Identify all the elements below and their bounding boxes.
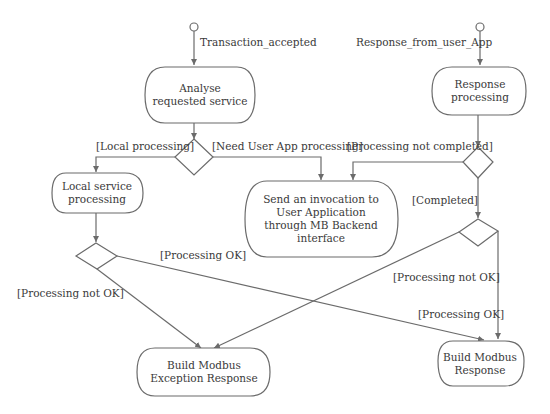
activity-diagram: Transaction_accepted Response_from_user_… bbox=[0, 0, 550, 414]
svg-text:Response: Response bbox=[455, 78, 506, 90]
svg-text:Analyse: Analyse bbox=[178, 82, 221, 94]
decision-node-local-result bbox=[76, 243, 117, 269]
start-node-transaction bbox=[190, 23, 198, 65]
svg-text:Build Modbus: Build Modbus bbox=[167, 359, 241, 371]
event-label-transaction-accepted: Transaction_accepted bbox=[200, 36, 317, 49]
guard-processing-ok-right: [Processing OK] bbox=[418, 308, 504, 320]
svg-text:interface: interface bbox=[297, 232, 345, 244]
guard-need-user-app: [Need User App processing] bbox=[212, 140, 363, 152]
svg-text:requested service: requested service bbox=[153, 95, 248, 107]
svg-text:Exception Response: Exception Response bbox=[150, 372, 257, 384]
svg-text:User Application: User Application bbox=[276, 206, 366, 218]
activity-local-service-processing: Local service processing bbox=[52, 173, 143, 213]
guard-completed: [Completed] bbox=[412, 194, 478, 206]
event-label-response-from-user-app: Response_from_user_App bbox=[356, 36, 493, 49]
activity-analyse-requested-service: Analyse requested service bbox=[145, 67, 255, 123]
svg-text:Build Modbus: Build Modbus bbox=[443, 351, 517, 363]
decision-node-remote-result bbox=[459, 219, 498, 246]
svg-text:processing: processing bbox=[68, 193, 126, 205]
activity-build-exception-response: Build Modbus Exception Response bbox=[137, 348, 270, 396]
svg-text:Send an invocation to: Send an invocation to bbox=[263, 193, 379, 205]
guard-processing-not-ok-left: [Processing not OK] bbox=[17, 287, 124, 299]
guard-processing-not-completed: [Processing not completed] bbox=[347, 140, 493, 152]
guard-processing-not-ok-right: [Processing not OK] bbox=[393, 271, 500, 283]
svg-text:processing: processing bbox=[451, 91, 509, 103]
activity-build-response: Build Modbus Response bbox=[438, 341, 524, 386]
activity-response-processing: Response processing bbox=[432, 67, 526, 115]
svg-text:Local service: Local service bbox=[62, 180, 132, 192]
guard-local-processing: [Local processing] bbox=[96, 140, 194, 152]
guard-processing-ok-left: [Processing OK] bbox=[160, 249, 246, 261]
activity-send-invocation: Send an invocation to User Application t… bbox=[245, 181, 398, 257]
svg-text:Response: Response bbox=[455, 364, 506, 376]
svg-text:through MB Backend: through MB Backend bbox=[264, 219, 378, 231]
